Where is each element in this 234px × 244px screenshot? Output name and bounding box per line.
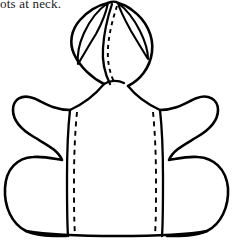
hooded-garment-figure <box>0 0 234 244</box>
body-seam-right <box>160 110 163 236</box>
shoulder-right-line <box>128 86 160 110</box>
stitch-line-right <box>153 112 156 234</box>
illustration-page: ots at neck. <box>0 0 234 244</box>
sleeve-right-outline <box>160 97 228 236</box>
body-seam-left <box>67 110 70 236</box>
hem-line <box>26 231 207 236</box>
hood-center-front-edge <box>108 2 118 4</box>
stitch-line-left <box>74 112 77 234</box>
shoulder-left-line <box>70 84 104 110</box>
hood-center-stitching <box>108 6 117 84</box>
sleeve-left-outline <box>5 97 70 236</box>
neck-notch <box>104 81 124 84</box>
